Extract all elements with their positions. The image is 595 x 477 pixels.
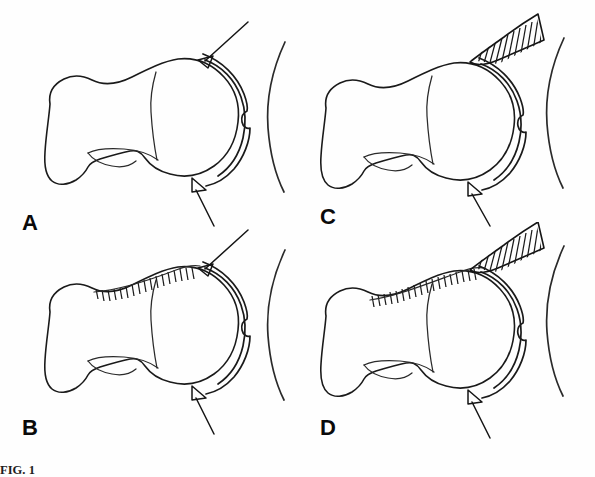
intertrochanteric-line — [364, 361, 434, 372]
figure-container: A — [0, 0, 595, 477]
pelvic-arc — [268, 42, 285, 192]
femur-outline — [321, 271, 515, 397]
figure-caption-label: FIG. 1 — [0, 463, 35, 477]
panel-d-drawing — [298, 222, 595, 450]
superior-neck-hatching — [94, 266, 200, 301]
panel-label-d: D — [320, 417, 336, 439]
inferior-pointer-line — [196, 398, 214, 434]
superior-pointer-line — [205, 22, 248, 61]
pelvic-arc — [547, 246, 564, 396]
physeal-line — [151, 72, 157, 160]
femur-outline — [45, 267, 239, 393]
femur-outline — [321, 63, 515, 189]
inferior-pointer-head — [192, 178, 206, 192]
panel-b-drawing — [0, 222, 297, 450]
figure-panel-d: D — [298, 222, 595, 450]
inferior-pointer-head — [192, 386, 206, 400]
physeal-line — [427, 284, 433, 372]
intertrochanteric-line — [88, 149, 158, 160]
panel-a-drawing — [0, 0, 297, 228]
pelvic-arc — [268, 250, 285, 400]
intertrochanteric-line — [364, 153, 434, 164]
inferior-pointer-head — [468, 182, 482, 196]
physeal-line — [151, 280, 157, 368]
pelvic-arc — [547, 38, 564, 188]
figure-caption: FIG. 1 — [0, 463, 595, 477]
superior-pointer-line — [205, 230, 248, 269]
figure-panel-b: B — [0, 222, 297, 450]
inferior-pointer-line — [196, 190, 214, 226]
panel-label-b: B — [22, 417, 38, 439]
inferior-pointer-head — [468, 390, 482, 404]
physeal-line — [427, 76, 433, 164]
superior-neck-hatching — [370, 268, 484, 307]
intertrochanteric-line — [88, 357, 158, 368]
figure-panel-c: C — [298, 0, 595, 228]
panel-c-drawing — [298, 0, 595, 228]
figure-panel-a: A — [0, 0, 297, 228]
inferior-pointer-line — [472, 402, 490, 438]
femur-outline — [45, 59, 239, 185]
